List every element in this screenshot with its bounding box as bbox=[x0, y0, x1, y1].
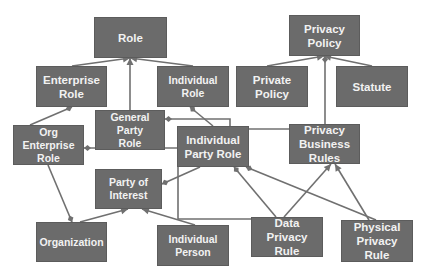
diagram-canvas: RoleEnterprise RoleIndividual RoleGenera… bbox=[0, 0, 430, 279]
node-label: Organization bbox=[39, 236, 103, 249]
diamond-icon bbox=[84, 145, 91, 151]
node-privacy-business-rules: Privacy Business Rules bbox=[289, 124, 360, 164]
node-individual-person: Individual Person bbox=[157, 225, 229, 266]
edge-individual-person-to-party-of-interest bbox=[142, 209, 195, 225]
edge-individual-party-role-to-general-party-role bbox=[165, 119, 230, 126]
node-label: Org Enterprise Role bbox=[23, 126, 75, 165]
node-individual-role: Individual Role bbox=[157, 66, 229, 107]
node-privacy-policy: Privacy Policy bbox=[289, 15, 360, 56]
node-label: Statute bbox=[353, 80, 392, 94]
node-label: General Party Role bbox=[99, 111, 161, 150]
node-label: Enterprise Role bbox=[43, 73, 100, 101]
node-party-of-interest: Party of Interest bbox=[95, 169, 162, 209]
node-individual-party-role: Individual Party Role bbox=[177, 126, 249, 167]
node-general-party-role: General Party Role bbox=[95, 110, 165, 150]
edge-physical-privacy-rule-to-individual-party-role bbox=[246, 167, 376, 220]
node-organization: Organization bbox=[36, 222, 107, 262]
edge-statute-to-privacy-policy bbox=[324, 56, 372, 66]
diamond-icon bbox=[161, 178, 170, 186]
edge-data-privacy-rule-to-individual-party-role bbox=[234, 167, 276, 217]
node-statute: Statute bbox=[336, 66, 408, 107]
edge-physical-privacy-rule-to-privacy-business-rules bbox=[335, 164, 369, 220]
node-label: Individual Person bbox=[168, 233, 217, 259]
node-enterprise-role: Enterprise Role bbox=[36, 66, 107, 107]
node-private-policy: Private Policy bbox=[236, 66, 308, 107]
edge-individual-role-to-role bbox=[130, 58, 193, 66]
node-label: Individual Party Role bbox=[185, 133, 242, 161]
node-label: Physical Privacy Rule bbox=[345, 220, 409, 262]
diamond-icon bbox=[165, 116, 172, 122]
edge-private-policy-to-privacy-policy bbox=[267, 56, 324, 66]
node-label: Individual Role bbox=[168, 74, 217, 100]
node-physical-privacy-rule: Physical Privacy Rule bbox=[341, 220, 413, 262]
edge-enterprise-role-to-role bbox=[72, 58, 130, 66]
edge-data-privacy-rule-to-privacy-business-rules bbox=[284, 164, 331, 217]
node-label: Role bbox=[118, 31, 143, 45]
edge-organization-to-party-of-interest bbox=[80, 209, 128, 222]
edge-org-enterprise-role-to-organization bbox=[48, 165, 72, 222]
node-data-privacy-rule: Data Privacy Rule bbox=[251, 217, 323, 257]
node-org-enterprise-role: Org Enterprise Role bbox=[13, 125, 84, 165]
node-label: Party of Interest bbox=[109, 176, 148, 202]
node-label: Privacy Business Rules bbox=[299, 123, 350, 165]
node-label: Privacy Policy bbox=[304, 22, 345, 50]
node-role: Role bbox=[94, 17, 167, 58]
node-label: Private Policy bbox=[253, 73, 291, 101]
node-label: Data Privacy Rule bbox=[255, 216, 319, 258]
